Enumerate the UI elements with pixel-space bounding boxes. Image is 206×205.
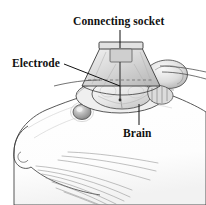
label-brain: Brain xyxy=(123,127,152,139)
rat-head-illustration xyxy=(0,0,206,205)
socket-top-plate xyxy=(99,42,143,49)
label-electrode: Electrode xyxy=(12,57,60,69)
diagram-figure: Connecting socket Electrode Brain xyxy=(0,0,206,205)
socket-pin-block xyxy=(110,49,132,62)
label-connecting-socket: Connecting socket xyxy=(73,15,164,27)
